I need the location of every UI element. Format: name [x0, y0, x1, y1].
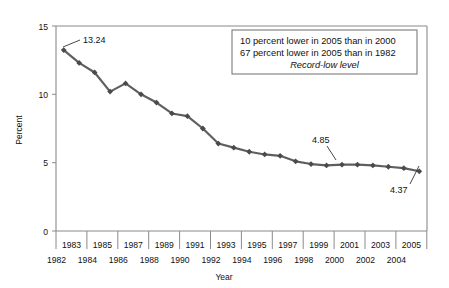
x-label-1989: 1989	[155, 240, 174, 250]
annotation-first: 13.24	[63, 35, 106, 47]
data-point-2001	[355, 162, 361, 168]
x-label-1996: 1996	[263, 255, 282, 265]
x-label-2000: 2000	[325, 255, 344, 265]
annotation-label-13-24: 13.24	[83, 35, 106, 45]
note-line-2: 67 percent lower in 2005 than in 1982	[240, 48, 396, 58]
line-chart-svg: 15 10 5 0 Percent 1983 1985 1987 198	[0, 0, 449, 288]
annotation-mid: 4.85	[312, 135, 336, 160]
data-point-1996	[277, 153, 283, 159]
y-tick-label-5: 5	[43, 158, 48, 168]
data-point-1997	[293, 158, 299, 164]
x-label-1997: 1997	[278, 240, 297, 250]
annotation-label-4-85: 4.85	[312, 135, 330, 145]
data-point-1995	[262, 152, 268, 158]
y-tick-label-15: 15	[38, 22, 48, 32]
x-label-2004: 2004	[387, 255, 406, 265]
data-point-2004	[401, 165, 407, 171]
note-line-3: Record-low level	[290, 60, 360, 70]
note-textbox: 10 percent lower in 2005 than in 2000 67…	[232, 30, 417, 74]
x-label-1995: 1995	[247, 240, 266, 250]
x-label-1999: 1999	[309, 240, 328, 250]
y-tick-label-10: 10	[38, 90, 48, 100]
y-tick-label-0: 0	[43, 227, 48, 237]
x-label-1984: 1984	[78, 255, 97, 265]
x-label-1983: 1983	[62, 240, 81, 250]
x-label-1982: 1982	[47, 255, 66, 265]
x-label-2003: 2003	[371, 240, 390, 250]
x-label-1998: 1998	[294, 255, 313, 265]
data-point-1993	[231, 145, 237, 151]
annotation-label-4-37: 4.37	[390, 185, 408, 195]
chart-container: 15 10 5 0 Percent 1983 1985 1987 198	[0, 0, 449, 288]
x-label-1986: 1986	[109, 255, 128, 265]
x-label-2002: 2002	[356, 255, 375, 265]
data-point-1999	[324, 163, 330, 169]
y-axis-title: Percent	[14, 115, 24, 145]
x-label-1990: 1990	[171, 255, 190, 265]
data-point-1998	[308, 161, 314, 167]
x-label-1991: 1991	[186, 240, 205, 250]
x-axis-title: Year	[215, 272, 232, 282]
x-label-1992: 1992	[201, 255, 220, 265]
data-point-2000	[339, 162, 345, 168]
x-label-1987: 1987	[124, 240, 143, 250]
y-tick-group	[52, 26, 56, 231]
note-line-1: 10 percent lower in 2005 than in 2000	[240, 36, 396, 46]
x-label-1988: 1988	[140, 255, 159, 265]
data-point-1994	[246, 149, 252, 155]
x-label-1985: 1985	[93, 240, 112, 250]
data-point-2002	[370, 163, 376, 169]
x-label-2001: 2001	[340, 240, 359, 250]
x-labels-lower: 1982 1984 1986 1988 1990 1992 1994 1996 …	[47, 255, 406, 265]
x-label-2005: 2005	[402, 240, 421, 250]
x-label-1994: 1994	[232, 255, 251, 265]
x-label-1993: 1993	[216, 240, 235, 250]
data-point-2003	[385, 164, 391, 170]
